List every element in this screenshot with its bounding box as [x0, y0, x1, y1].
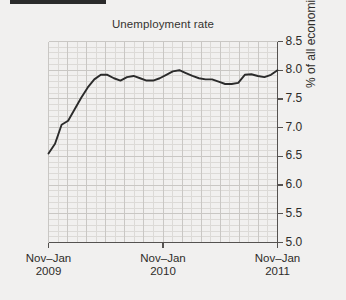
y-tick-label: 6.5	[286, 148, 303, 162]
major-gridlines	[49, 42, 278, 243]
y-axis-title: % of all economically active	[304, 0, 322, 88]
x-tick-label-year: 2009	[12, 265, 86, 278]
y-tick-label: 7.5	[286, 91, 303, 105]
y-tick-label: 6.0	[286, 177, 303, 191]
x-tick-label-period: Nov–Jan	[255, 252, 300, 264]
y-tick-label: 7.0	[286, 120, 303, 134]
y-tick-label: 5.5	[286, 206, 303, 220]
chart-figure: Unemployment rate 8.58.07.57.06.56.05.55…	[0, 0, 346, 300]
x-tick-label: Nov–Jan2009	[12, 252, 86, 278]
y-tick-label: 8.0	[286, 62, 303, 76]
y-tick-label: 5.0	[286, 235, 303, 249]
x-tick-label: Nov–Jan2011	[241, 252, 315, 278]
x-tick-label-period: Nov–Jan	[140, 252, 185, 264]
x-tick-label-year: 2011	[241, 265, 315, 278]
x-tick-label-period: Nov–Jan	[26, 252, 71, 264]
y-tick-label: 8.5	[286, 34, 303, 48]
x-tick-label-year: 2010	[126, 265, 200, 278]
x-tick-label: Nov–Jan2010	[126, 252, 200, 278]
